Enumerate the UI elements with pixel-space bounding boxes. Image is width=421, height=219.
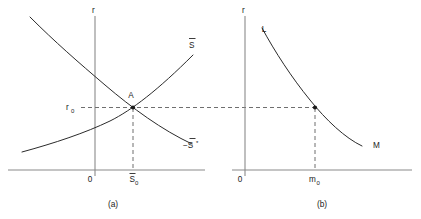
curve-minus-s-bar-star — [30, 17, 192, 144]
panel-b-m0-label: m 0 — [309, 175, 321, 186]
panel-b-equilibrium-dot — [313, 105, 317, 109]
panel-a-r0-subscript: 0 — [71, 108, 75, 114]
panel-a-equilibrium-dot — [131, 105, 135, 109]
panel-a-r0-base: r — [66, 103, 69, 112]
panel-a-demand-label-star: * — [196, 140, 199, 146]
panel-a-s0-subscript: 0 — [135, 180, 139, 186]
economics-two-panel-figure: r 0 A r 0 S 0 S — [0, 0, 421, 219]
panel-a-supply-curve-label: S — [189, 39, 196, 51]
panel-b-vertical-axis-label: r — [242, 6, 245, 15]
panel-a-origin-label: 0 — [88, 175, 93, 184]
panel-a-point-a-label: A — [128, 91, 134, 100]
panel-a-demand-label-text: −S — [183, 141, 194, 150]
panel-a-vertical-axis-label: r — [92, 6, 95, 15]
curve-s-bar-supply — [22, 55, 193, 152]
panel-a-supply-label-text: S — [189, 41, 195, 50]
panel-b-curve-bottom-label: M — [373, 141, 380, 150]
panel-b-m0-subscript: 0 — [317, 180, 321, 186]
panel-a-s0-label: S 0 — [130, 174, 140, 187]
panel-a-caption: (a) — [108, 199, 118, 209]
panel-b-m0-base: m — [309, 175, 316, 184]
panel-a-r0-label: r 0 — [66, 103, 75, 114]
panel-b-origin-label: 0 — [238, 175, 243, 184]
panel-a: r 0 A r 0 S 0 S — [8, 6, 316, 209]
panel-b-curve-top-label: L — [262, 25, 267, 34]
panel-a-demand-curve-label: −S * — [183, 139, 199, 151]
curve-lm-money-demand — [262, 28, 362, 146]
panel-b-caption: (b) — [317, 199, 327, 209]
